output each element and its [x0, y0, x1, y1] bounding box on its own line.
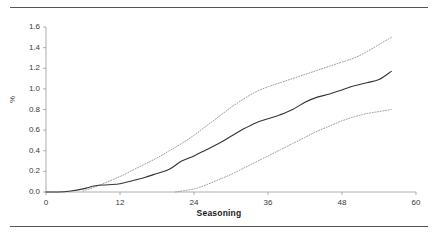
y-tick-label: 1.6	[18, 22, 40, 31]
x-tick-label: 60	[404, 198, 428, 207]
series-line-2	[176, 110, 392, 193]
x-tick-label: 36	[256, 198, 280, 207]
x-tick-label: 0	[34, 198, 58, 207]
plot-area	[0, 0, 438, 235]
y-tick-label: 0.4	[18, 146, 40, 155]
y-tick-label: 0.8	[18, 105, 40, 114]
x-axis-title: Seasoning	[0, 208, 438, 218]
y-axis-title: %	[8, 96, 17, 103]
y-tick-label: 0.6	[18, 125, 40, 134]
y-tick-label: 1.4	[18, 43, 40, 52]
x-tick-label: 12	[108, 198, 132, 207]
x-tick-label: 24	[182, 198, 206, 207]
y-tick-label: 1.2	[18, 63, 40, 72]
series-line-0	[83, 37, 391, 191]
y-tick-label: 0.0	[18, 187, 40, 196]
y-tick-label: 1.0	[18, 84, 40, 93]
y-tick-label: 0.2	[18, 166, 40, 175]
series-line-1	[46, 71, 391, 192]
x-tick-label: 48	[330, 198, 354, 207]
chart-figure: % Seasoning 0.00.20.40.60.81.01.21.41.6 …	[0, 0, 438, 235]
